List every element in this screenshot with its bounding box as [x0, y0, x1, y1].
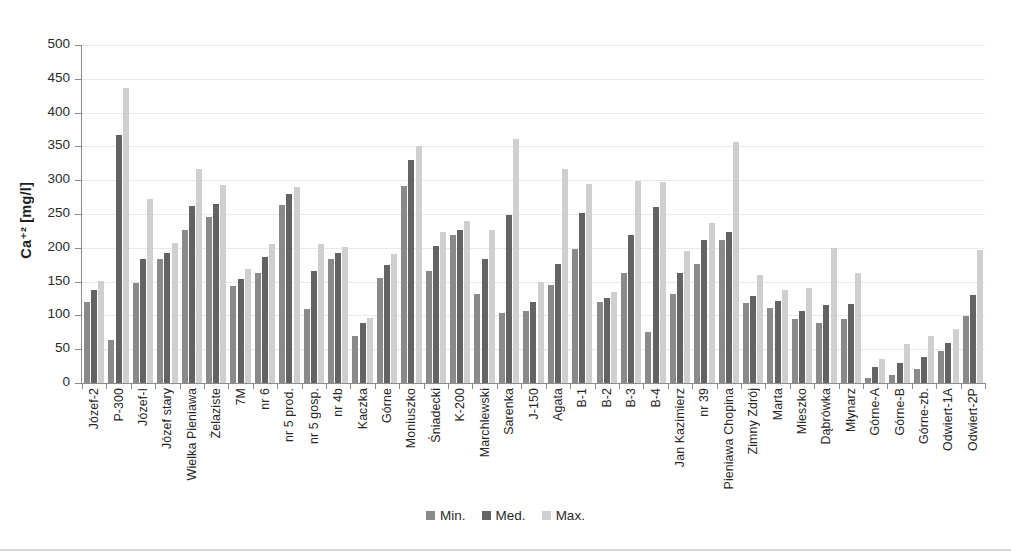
legend-item[interactable]: Med. — [482, 508, 526, 523]
bar-med — [921, 357, 927, 383]
bar-med — [872, 367, 878, 383]
x-axis-tick — [302, 383, 303, 389]
bar-group — [497, 45, 521, 383]
x-axis-tick-label: J-150 — [527, 388, 541, 420]
bar-group — [448, 45, 472, 383]
bar-group — [570, 45, 594, 383]
bar-med — [91, 290, 97, 383]
bar-med — [238, 279, 244, 383]
legend-item[interactable]: Min. — [426, 508, 466, 523]
bar-min — [230, 286, 236, 383]
bar-min — [841, 319, 847, 383]
y-axis-tick — [75, 315, 82, 316]
bar-med — [286, 194, 292, 383]
x-axis-tick — [570, 383, 571, 389]
x-axis-tick-label: nr 5 prod. — [282, 388, 296, 442]
bar-min — [963, 316, 969, 383]
bar-med — [677, 273, 683, 383]
bar-min — [206, 217, 212, 383]
x-axis-tick-label: Górne-B — [893, 388, 907, 436]
bar-med — [360, 323, 366, 383]
bar-max — [806, 288, 812, 383]
bar-max — [147, 199, 153, 383]
x-axis-tick-label: nr 39 — [697, 388, 711, 417]
bar-med — [775, 301, 781, 383]
legend-item[interactable]: Max. — [542, 508, 585, 523]
bar-min — [572, 249, 578, 383]
bar-min — [304, 309, 310, 383]
x-axis-tick — [814, 383, 815, 389]
y-axis-tick — [75, 79, 82, 80]
bar-max — [904, 344, 910, 383]
bar-group — [619, 45, 643, 383]
bar-min — [938, 351, 944, 383]
bar-max — [855, 273, 861, 383]
x-axis-tick-label: Sarenka — [502, 388, 516, 435]
bar-min — [450, 235, 456, 383]
x-axis-tick — [936, 383, 937, 389]
x-axis-tick — [546, 383, 547, 389]
bar-min — [548, 285, 554, 383]
x-axis-tick-label: Józef-2 — [87, 388, 101, 429]
x-axis-tick-label: Górne-A — [868, 388, 882, 436]
bar-max — [269, 244, 275, 383]
bar-med — [579, 213, 585, 383]
bar-max — [245, 269, 251, 383]
bar-group — [814, 45, 838, 383]
bar-group — [668, 45, 692, 383]
chart-legend: Min.Med.Max. — [0, 503, 1011, 527]
bar-group — [839, 45, 863, 383]
legend-label: Med. — [496, 508, 526, 523]
bar-min — [401, 186, 407, 383]
x-axis-tick — [448, 383, 449, 389]
bar-med — [482, 259, 488, 383]
bar-group — [643, 45, 667, 383]
y-axis-tick — [75, 282, 82, 283]
x-axis-tick-label: Żelaziste — [209, 388, 223, 438]
bar-med — [408, 160, 414, 383]
x-axis-tick-label: Górne-zb. — [917, 388, 931, 444]
x-axis-tick-label: nr 6 — [258, 388, 272, 410]
bar-min — [157, 259, 163, 383]
x-axis-tick — [106, 383, 107, 389]
bar-min — [523, 311, 529, 383]
bar-group — [302, 45, 326, 383]
x-axis-tick-label: Dąbrówka — [819, 388, 833, 445]
x-axis-tick-label: Odwiert-1A — [941, 388, 955, 451]
bar-group — [131, 45, 155, 383]
bar-group — [326, 45, 350, 383]
bar-chart: Ca⁺² [mg/l] 5004504003503002502001501005… — [0, 0, 1011, 553]
x-axis-tick-label: 7M — [234, 388, 248, 405]
bar-max — [123, 88, 129, 383]
bar-group — [399, 45, 423, 383]
bar-med — [897, 363, 903, 383]
bar-min — [597, 302, 603, 383]
x-axis-tick — [350, 383, 351, 389]
x-axis-tick — [277, 383, 278, 389]
y-axis-tick-label: 500 — [28, 36, 70, 51]
x-axis-tick — [521, 383, 522, 389]
x-axis-tick-label: Józef-I — [136, 388, 150, 426]
bar-min — [865, 378, 871, 383]
bar-med — [189, 206, 195, 383]
bar-med — [530, 302, 536, 383]
x-axis-tick — [253, 383, 254, 389]
x-axis-tick — [497, 383, 498, 389]
bar-group — [155, 45, 179, 383]
x-axis-tick — [961, 383, 962, 389]
bar-max — [367, 318, 373, 383]
bar-max — [220, 185, 226, 383]
bar-group — [253, 45, 277, 383]
bar-med — [799, 311, 805, 383]
x-axis-tick-label: Mieszko — [795, 388, 809, 434]
x-axis-tick-label: Józef stary — [160, 388, 174, 449]
bar-max — [635, 181, 641, 383]
x-axis-tick-label: Górne — [380, 388, 394, 423]
bar-med — [555, 264, 561, 383]
bar-med — [506, 215, 512, 383]
bar-group — [180, 45, 204, 383]
x-axis-tick — [985, 383, 986, 389]
x-axis-tick-label: B-1 — [575, 388, 589, 408]
bar-max — [611, 292, 617, 383]
bar-group — [106, 45, 130, 383]
